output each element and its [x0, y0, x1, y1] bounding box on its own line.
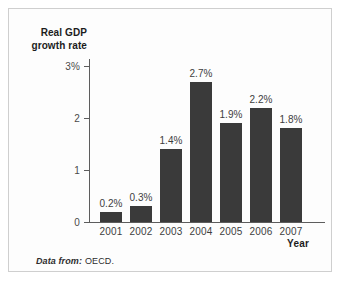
bar-category-2002: 2002 [129, 226, 152, 237]
y-tick-label: 2 [74, 113, 80, 124]
y-tick-label: 1 [74, 165, 80, 176]
bar-value-2001: 0.2% [99, 198, 122, 209]
bar-value-2007: 1.8% [279, 114, 302, 125]
bar-value-2006: 2.2% [249, 94, 272, 105]
x-axis-title: Year [287, 238, 309, 249]
figure-border: Real GDP growth rate 0 1 2 3% [8, 8, 332, 272]
bar-2007 [280, 128, 302, 222]
source-note: Data from:OECD. [36, 256, 114, 266]
y-tick-mark [84, 118, 90, 119]
bar-category-2001: 2001 [99, 226, 122, 237]
chart-figure: Real GDP growth rate 0 1 2 3% [0, 0, 344, 284]
x-axis-line [89, 222, 325, 223]
bar-category-2004: 2004 [189, 226, 212, 237]
bar-2006 [250, 108, 272, 222]
bar-value-2004: 2.7% [189, 68, 212, 79]
bar-2003 [160, 149, 182, 222]
bar-category-2003: 2003 [159, 226, 182, 237]
bar-category-2007: 2007 [279, 226, 302, 237]
y-tick-mark [84, 66, 90, 67]
bar-value-2002: 0.3% [129, 192, 152, 203]
y-axis-title-line-2: growth rate [25, 40, 87, 53]
source-note-body: OECD. [85, 256, 114, 266]
bar-2005 [220, 123, 242, 222]
y-tick-label: 3% [65, 61, 80, 72]
source-note-lead: Data from: [36, 256, 82, 266]
bar-2004 [190, 82, 212, 222]
bar-value-2005: 1.9% [219, 109, 242, 120]
bar-category-2005: 2005 [219, 226, 242, 237]
bar-value-2003: 1.4% [159, 135, 182, 146]
y-axis-line [89, 59, 90, 223]
y-tick-mark [84, 170, 90, 171]
plot-area: 0 1 2 3% 0.2% 2001 0.3% 2002 1.4% [89, 49, 325, 223]
y-tick-label: 0 [74, 217, 80, 228]
bar-category-2006: 2006 [249, 226, 272, 237]
bar-2001 [100, 212, 122, 222]
y-axis-title-line-1: Real GDP [25, 27, 87, 40]
y-axis-title: Real GDP growth rate [25, 27, 87, 52]
y-tick-mark [84, 222, 90, 223]
bar-2002 [130, 206, 152, 222]
